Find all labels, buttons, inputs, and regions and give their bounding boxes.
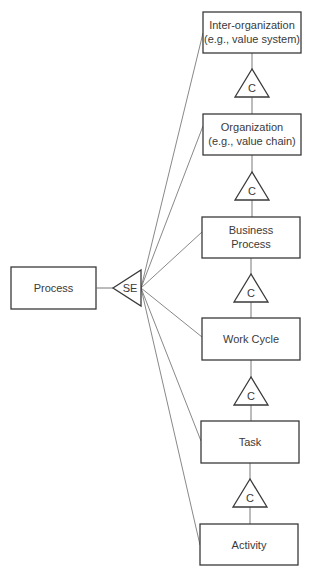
process-label: Process	[34, 282, 74, 294]
process-node: Process	[11, 267, 96, 309]
composition-connector-label: C	[247, 390, 255, 402]
level-label: Task	[239, 436, 262, 448]
se-line-business-process	[141, 232, 202, 288]
level-label: Activity	[232, 539, 267, 551]
level-node-business-process: Business Process	[202, 217, 300, 258]
composition-connector-4: C	[234, 377, 268, 405]
level-label-line-1: Inter-organization	[209, 19, 295, 31]
composition-connector-5: C	[233, 479, 267, 507]
se-line-work-cycle	[141, 288, 202, 337]
level-node-activity: Activity	[200, 524, 298, 565]
level-node-inter-organization: Inter-organization (e.g., value system)	[203, 12, 301, 53]
composition-connector-label: C	[248, 185, 256, 197]
composition-connector-label: C	[247, 287, 255, 299]
level-label: Work Cycle	[223, 333, 279, 345]
se-connector-label: SE	[123, 282, 138, 294]
se-line-inter-organization	[141, 33, 203, 288]
process-hierarchy-diagram: Process SE C C C C C Inter-organization	[0, 0, 313, 573]
composition-connector-3: C	[234, 274, 268, 302]
composition-connector-label: C	[246, 492, 254, 504]
level-label-line-1: Business	[229, 224, 274, 236]
level-node-organization: Organization (e.g., value chain)	[203, 114, 301, 155]
composition-connector-1: C	[235, 69, 269, 97]
se-connector: SE	[113, 270, 141, 306]
level-label-line-1: Organization	[221, 121, 283, 133]
specialization-lines	[141, 33, 203, 545]
se-line-organization	[141, 126, 203, 288]
level-label-line-2: Process	[231, 238, 271, 250]
level-node-task: Task	[201, 421, 299, 463]
level-label-line-2: (e.g., value chain)	[208, 135, 295, 147]
level-label-line-2: (e.g., value system)	[204, 33, 300, 45]
level-node-work-cycle: Work Cycle	[202, 318, 300, 360]
composition-connector-2: C	[235, 172, 269, 200]
composition-connector-label: C	[248, 82, 256, 94]
